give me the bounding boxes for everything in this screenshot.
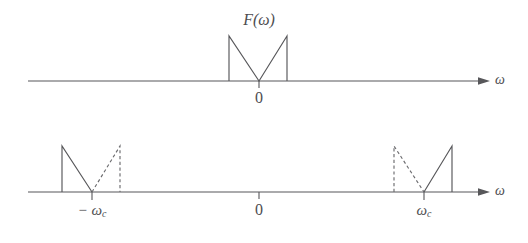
top-origin-label: 0 xyxy=(255,90,263,106)
positive-cutoff-subscript: c xyxy=(427,208,431,219)
top-axis-label-omega: ω xyxy=(495,73,505,87)
negative-replica-solid-trace xyxy=(62,146,92,192)
bottom-axis-arrowhead xyxy=(478,188,490,196)
top-plot-group xyxy=(28,36,490,88)
baseband-v-spectrum-trace xyxy=(229,36,287,81)
negative-cutoff-symbol: − ω xyxy=(78,202,102,218)
negative-replica-dashed-trace xyxy=(92,146,120,192)
positive-cutoff-symbol: ω xyxy=(416,202,427,218)
bottom-origin-label: 0 xyxy=(255,202,263,218)
positive-replica-solid-trace xyxy=(424,146,452,192)
positive-cutoff-label: ωc xyxy=(416,203,431,219)
transform-label-F-omega: F(ω) xyxy=(243,12,275,28)
fourier-spectrum-figure: F(ω) ω 0 ω − ωc 0 ωc xyxy=(0,0,528,243)
positive-replica-dashed-trace xyxy=(394,146,424,192)
negative-cutoff-label: − ωc xyxy=(78,203,107,219)
negative-cutoff-subscript: c xyxy=(102,208,106,219)
top-axis-arrowhead xyxy=(478,77,490,85)
bottom-axis-label-omega: ω xyxy=(495,184,505,198)
bottom-plot-group xyxy=(28,146,490,200)
